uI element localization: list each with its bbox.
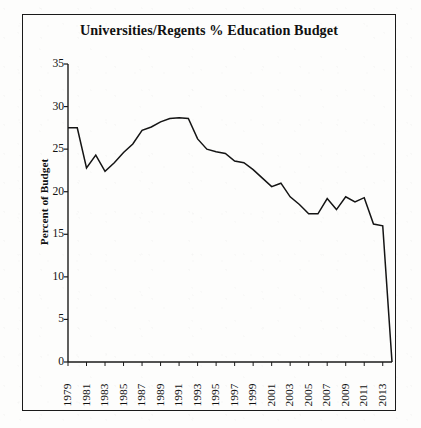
axis-lines xyxy=(68,64,392,362)
data-series-line xyxy=(68,118,392,362)
plot-area xyxy=(0,0,421,428)
chart-figure: Universities/Regents % Education Budget … xyxy=(0,0,421,428)
